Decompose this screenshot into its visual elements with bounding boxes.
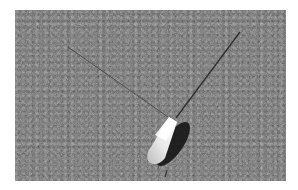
asphalt-photo xyxy=(15,10,286,181)
photo-contents xyxy=(15,10,286,181)
